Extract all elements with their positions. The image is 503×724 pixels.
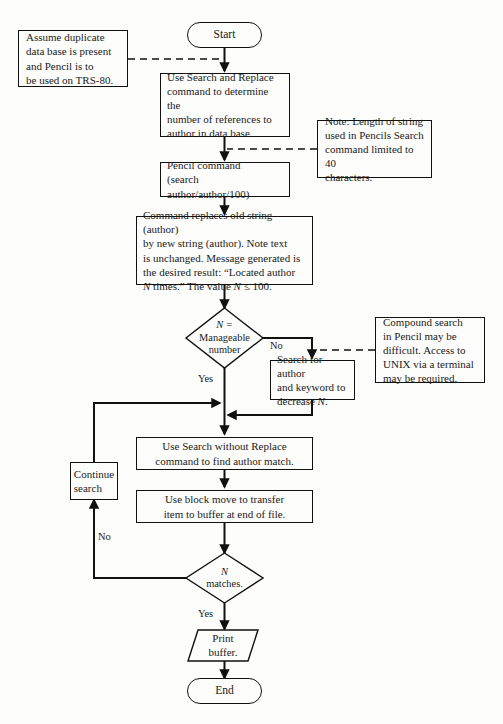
node-end[interactable]: End — [187, 678, 262, 704]
node-pencil-command[interactable]: Pencil command (search author/author/100… — [160, 162, 290, 197]
node-line: buffer. — [209, 646, 238, 660]
node-line: number of references to — [167, 112, 283, 126]
node-line: item to buffer at end of file. — [143, 507, 306, 521]
annotation-line: and Pencil is to — [26, 59, 120, 73]
node-end-label: End — [215, 684, 234, 699]
node-line: by new string (author). Note text — [143, 236, 306, 250]
annotation-line: command limited to 40 — [325, 142, 424, 170]
node-line: Continue — [74, 467, 114, 481]
decision-manageable-shape — [186, 308, 263, 368]
annotation-line: characters. — [325, 170, 424, 184]
annotation-line: be used on TRS-80. — [26, 73, 120, 87]
decision-matches-shape — [186, 553, 263, 603]
node-line: search — [74, 481, 114, 495]
node-line: Use Search and Replace — [167, 70, 283, 84]
annotation-line: difficult. Access to — [383, 343, 477, 357]
annotation-line: data base is present — [26, 44, 120, 58]
flowchart-canvas: Assume duplicate data base is present an… — [0, 0, 503, 724]
node-line: is unchanged. Message generated is — [143, 251, 306, 265]
edge-label-no-matches: No — [98, 531, 111, 542]
node-start[interactable]: Start — [187, 22, 262, 48]
annotation-line: Assume duplicate — [26, 30, 120, 44]
annotation-line: used in Pencils Search — [325, 128, 424, 142]
node-line: (search author/author/100) — [167, 172, 283, 200]
node-line: Use Search without Replace — [143, 439, 306, 453]
node-line: Search for author — [277, 352, 348, 380]
node-line: command to find author match. — [143, 454, 306, 468]
annotation-line: UNIX via a terminal — [383, 357, 477, 371]
node-line: the desired result: “Located author — [143, 265, 306, 279]
node-line: Command replaces old string (author) — [143, 208, 306, 236]
node-search-without-replace[interactable]: Use Search without Replace command to fi… — [136, 437, 313, 470]
node-line: Print — [209, 632, 238, 646]
node-line: N times.” The value N ≤ 100. — [143, 279, 306, 293]
node-search-replace[interactable]: Use Search and Replace command to determ… — [160, 73, 290, 137]
node-line: command to determine the — [167, 84, 283, 112]
annotation-assume-duplicate: Assume duplicate data base is present an… — [18, 30, 128, 87]
node-command-replaces[interactable]: Command replaces old string (author) by … — [136, 216, 313, 285]
annotation-line: Note: Length of string — [325, 114, 424, 128]
annotation-compound-search: Compound search in Pencil may be difficu… — [375, 317, 485, 383]
node-line: and keyword to — [277, 380, 348, 394]
node-start-label: Start — [214, 28, 236, 43]
node-line: Pencil command — [167, 158, 283, 172]
annotation-note-length: Note: Length of string used in Pencils S… — [317, 120, 432, 178]
node-line: decrease N. — [277, 394, 348, 408]
annotation-line: may be required. — [383, 371, 477, 385]
annotation-line: in Pencil may be — [383, 329, 477, 343]
node-continue-search[interactable]: Continue search — [70, 462, 118, 500]
node-line: Use block move to transfer — [143, 492, 306, 506]
node-print-buffer[interactable]: Print buffer. — [188, 630, 258, 661]
node-search-keyword[interactable]: Search for author and keyword to decreas… — [270, 360, 355, 400]
edge-label-yes-manageable: Yes — [198, 373, 213, 384]
node-line: author in data base. — [167, 126, 283, 140]
edge-label-yes-matches: Yes — [198, 608, 213, 619]
edge-label-no-manageable: No — [270, 340, 283, 351]
node-block-move[interactable]: Use block move to transfer item to buffe… — [136, 490, 313, 523]
annotation-line: Compound search — [383, 315, 477, 329]
